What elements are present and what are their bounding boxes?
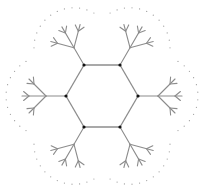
continuation-dot: [40, 26, 41, 27]
continuation-dot: [33, 47, 34, 48]
tree-fork: [27, 108, 34, 109]
branch-trees: [22, 25, 182, 168]
hexagon-edge: [120, 96, 138, 127]
continuation-dot: [177, 61, 178, 62]
tree-branch: [29, 96, 46, 113]
continuation-dot: [169, 40, 170, 41]
continuation-dot: [71, 7, 72, 8]
tree-fork: [75, 161, 78, 167]
continuation-dot: [10, 114, 11, 115]
continuation-dot: [131, 7, 132, 8]
continuation-dot: [25, 61, 26, 62]
continuation-dot: [110, 12, 111, 13]
continuation-dot: [124, 183, 125, 184]
tree-fork: [24, 96, 29, 101]
tree-fork: [51, 43, 57, 46]
continuation-dot: [44, 20, 45, 21]
continuation-dot: [44, 171, 45, 172]
continuation-dot: [33, 144, 34, 145]
continuation-dot: [36, 32, 37, 33]
continuation-dot: [139, 183, 140, 184]
continuation-dot: [169, 151, 170, 152]
hexagon-edge: [66, 65, 84, 96]
tree-fork: [175, 92, 180, 97]
continuation-dot: [163, 26, 164, 27]
continuation-dot: [14, 71, 15, 72]
continuation-dot: [163, 165, 164, 166]
continuation-dot: [167, 32, 168, 33]
tree-fork: [65, 159, 66, 166]
tree-fork: [147, 43, 153, 46]
continuation-dot: [124, 8, 125, 9]
continuation-dot: [196, 107, 197, 108]
continuation-dot: [50, 176, 51, 177]
continuation-dot: [167, 159, 168, 160]
tree-fork: [137, 159, 138, 166]
continuation-dot: [7, 84, 8, 85]
continuation-dot: [146, 180, 147, 181]
continuation-dot: [71, 184, 72, 185]
tree-fork: [147, 146, 153, 149]
continuation-dot: [25, 130, 26, 131]
continuation-dot: [139, 8, 140, 9]
tree-fork: [137, 26, 138, 33]
continuation-dot: [57, 180, 58, 181]
tree-fork: [126, 161, 129, 167]
tree-trunk: [120, 127, 130, 144]
tree-branch: [158, 96, 175, 113]
tree-trunk: [74, 127, 84, 144]
hexagon-vertex: [118, 125, 121, 128]
hexagon-vertex: [82, 125, 85, 128]
continuation-dot: [131, 184, 132, 185]
continuation-dot: [86, 182, 87, 183]
tree-fork: [170, 83, 177, 84]
tree-branch: [29, 79, 46, 96]
tree-fork: [75, 25, 78, 31]
tree-fork: [65, 26, 66, 33]
tree-fork: [170, 108, 171, 115]
central-hexagon: [66, 65, 138, 127]
continuation-dot: [64, 8, 65, 9]
continuation-dot: [117, 9, 118, 10]
hexagon-vertex: [136, 94, 139, 97]
continuation-dot: [19, 65, 20, 66]
continuation-dot: [169, 144, 170, 145]
continuation-dot: [146, 11, 147, 12]
tree-fork: [33, 77, 34, 84]
tree-fork: [126, 25, 129, 31]
continuation-dot: [93, 12, 94, 13]
tree-fork: [170, 108, 177, 109]
tree-fork: [175, 96, 180, 101]
continuation-dot: [159, 20, 160, 21]
continuation-dot: [34, 151, 35, 152]
tree-trunk: [74, 48, 84, 65]
tree-fork: [24, 92, 29, 97]
continuation-dot: [184, 126, 185, 127]
continuation-dot: [189, 71, 190, 72]
hexagon-vertex: [118, 63, 121, 66]
continuation-dot: [79, 183, 80, 184]
continuation-dot: [64, 183, 65, 184]
hexagon-edge: [120, 65, 138, 96]
continuation-dot: [36, 159, 37, 160]
hexagon-vertex: [64, 94, 67, 97]
hexagon-edge: [66, 96, 84, 127]
continuation-dot: [86, 9, 87, 10]
tree-fork: [170, 77, 171, 84]
continuation-dot: [177, 130, 178, 131]
continuation-dot: [196, 84, 197, 85]
hexagonal-tree-diagram: [0, 0, 208, 189]
continuation-dot: [169, 47, 170, 48]
continuation-dot: [184, 65, 185, 66]
tree-trunk: [120, 48, 130, 65]
continuation-dot: [159, 171, 160, 172]
continuation-dot: [10, 77, 11, 78]
continuation-dot: [79, 8, 80, 9]
continuation-dot: [6, 92, 7, 93]
continuation-dot: [189, 120, 190, 121]
hexagon-vertices: [64, 63, 139, 128]
continuation-dot: [117, 182, 118, 183]
continuation-dot: [93, 178, 94, 179]
tree-fork: [27, 83, 34, 84]
continuation-dot: [153, 15, 154, 16]
